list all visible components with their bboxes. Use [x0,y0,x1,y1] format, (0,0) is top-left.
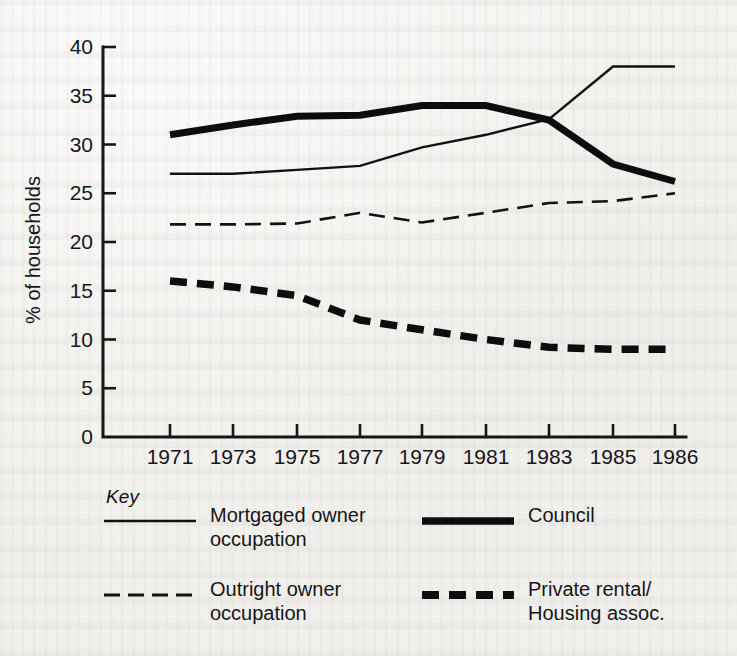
legend-item-mortgaged-owner-occupation[interactable]: Mortgaged owner occupation [104,504,366,551]
x-axis-tick-label: 1973 [210,445,257,468]
x-axis-ticks [170,424,675,437]
legend-label-council: Council [528,504,595,528]
series-line-council [170,106,675,182]
y-axis-tick-label: 30 [70,133,93,156]
series-line-outright-owner-occupation [170,193,675,224]
x-axis-tick-label: 1983 [526,445,573,468]
y-axis-tick-label: 0 [81,425,93,448]
x-axis-tick-label: 1977 [337,445,384,468]
y-axis-title: % of households [22,176,44,324]
x-axis-tick-labels: 197119731975197719791981198319851986 [147,445,699,468]
chart-svg: 0510152025303540 19711973197519771979198… [0,0,737,480]
legend-label-private: Private rental/ Housing assoc. [528,578,665,625]
legend-item-private-rental-housing-assoc[interactable]: Private rental/ Housing assoc. [422,578,665,625]
x-axis-tick-label: 1975 [274,445,321,468]
x-axis-tick-label: 1985 [590,445,637,468]
line-chart: 0510152025303540 19711973197519771979198… [0,0,737,656]
y-axis-tick-label: 10 [70,328,93,351]
y-axis-tick-label: 20 [70,230,93,253]
legend-swatch-thick-dashed-icon [422,584,514,606]
legend-item-outright-owner-occupation[interactable]: Outright owner occupation [104,578,341,625]
y-axis-tick-label: 15 [70,279,93,302]
x-axis-tick-label: 1981 [463,445,510,468]
x-axis-tick-label: 1971 [147,445,194,468]
legend-label-outright: Outright owner occupation [210,578,341,625]
y-axis-tick-label: 35 [70,84,93,107]
x-axis-tick-label: 1979 [399,445,446,468]
legend-swatch-thin-dashed-icon [104,584,196,606]
y-axis-tick-label: 40 [70,35,93,58]
series-line-private-rental-housing-assoc [170,281,675,349]
legend-swatch-thin-solid-icon [104,510,196,532]
x-axis-tick-label: 1986 [652,445,699,468]
y-axis-tick-label: 25 [70,181,93,204]
y-axis-ticks [103,47,116,388]
y-axis-tick-labels: 0510152025303540 [70,35,93,448]
y-axis-tick-label: 5 [81,376,93,399]
chart-axes [103,47,686,437]
legend-item-council[interactable]: Council [422,504,595,532]
chart-legend: Key Mortgaged owner occupation Council O… [104,486,704,646]
legend-label-mortgaged: Mortgaged owner occupation [210,504,366,551]
legend-swatch-thick-solid-icon [422,510,514,532]
chart-series-layer [170,67,675,350]
